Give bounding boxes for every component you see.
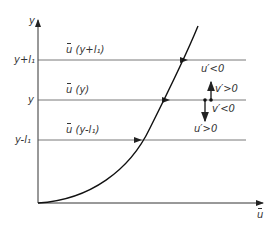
line-label-u-y-minus-l1: u (y-l₁) <box>66 125 99 135</box>
velocity-profile-curve <box>38 26 198 203</box>
y-axis-label: y <box>29 16 35 26</box>
u-bar: u <box>66 45 72 55</box>
annotation-lower-v: v′<0 <box>212 104 235 114</box>
arrow-head-icon <box>134 137 142 143</box>
u-bar: u <box>66 125 72 135</box>
velocity-profile-diagram <box>0 0 271 228</box>
tick-label-y-minus-l1: y-l₁ <box>15 135 31 145</box>
annotation-upper-u: u′<0 <box>201 64 224 74</box>
line-label-u-y-plus-l1: u (y+l₁) <box>66 45 104 55</box>
tick-label-y: y <box>28 95 34 105</box>
annotation-lower-u: u′>0 <box>194 124 217 134</box>
annotation-upper-v: v′>0 <box>215 84 238 94</box>
arg: (y) <box>76 84 90 95</box>
x-axis-label-text: u <box>257 210 263 220</box>
arg: (y+l₁) <box>76 44 105 55</box>
x-axis-label: u <box>257 210 263 220</box>
u-bar: u <box>66 85 72 95</box>
tick-label-y-plus-l1: y+l₁ <box>14 55 35 65</box>
line-label-u-y: u (y) <box>66 85 89 95</box>
arg: (y-l₁) <box>76 124 100 135</box>
